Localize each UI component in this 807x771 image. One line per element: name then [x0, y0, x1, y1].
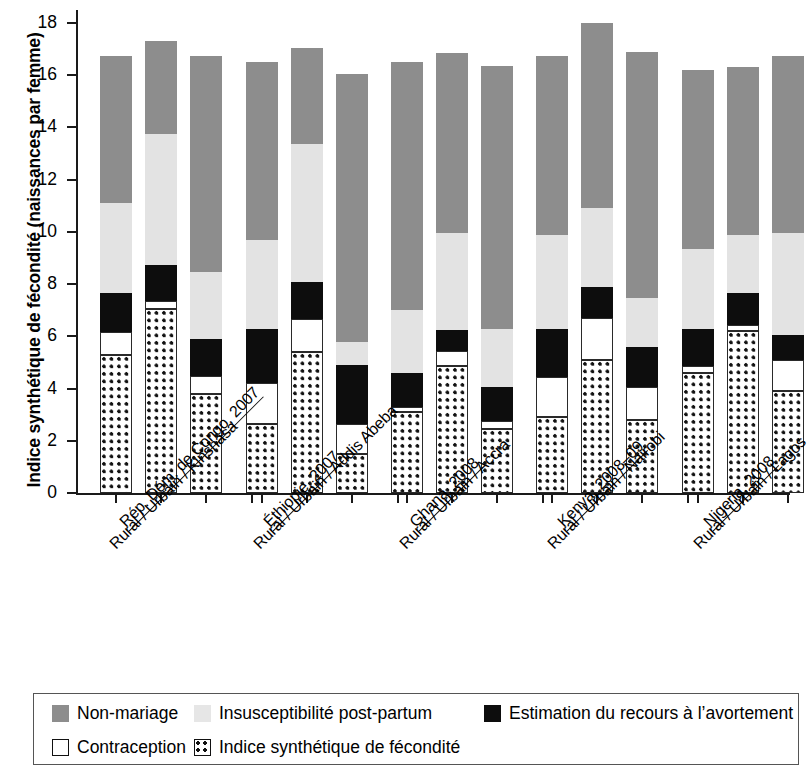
y-tick-14: [67, 126, 76, 128]
bar-segment-abortion: [772, 335, 804, 360]
bar-segment-postpartum: [581, 208, 613, 286]
stacked-bar[interactable]: [291, 48, 323, 493]
bar-segment-contraception: [190, 376, 222, 394]
bar-segment-postpartum: [682, 249, 714, 329]
bar-segment-nonmarriage: [336, 74, 368, 342]
bar-segment-contraception: [581, 318, 613, 360]
x-tick: [787, 495, 789, 503]
bar-segment-nonmarriage: [190, 56, 222, 273]
bar-segment-postpartum: [391, 310, 423, 373]
bar-segment-nonmarriage: [436, 53, 468, 233]
bar-segment-contraception: [682, 366, 714, 373]
bar-segment-abortion: [336, 365, 368, 424]
legend-label: Estimation du recours à l’avortement: [509, 703, 793, 724]
stacked-bar[interactable]: [481, 66, 513, 493]
y-tick-18: [67, 22, 76, 24]
y-tick-0: [67, 492, 76, 494]
stacked-bar[interactable]: [626, 52, 658, 493]
legend-row-top: Non-mariageInsusceptibilité post-partumE…: [34, 696, 798, 730]
bar-segment-abortion: [536, 329, 568, 377]
stacked-bar[interactable]: [391, 62, 423, 493]
legend-item-abortion[interactable]: Estimation du recours à l’avortement: [484, 696, 793, 730]
stacked-bar[interactable]: [581, 23, 613, 493]
bar-segment-abortion: [391, 373, 423, 407]
stacked-bar[interactable]: [436, 53, 468, 493]
bar-segment-postpartum: [291, 144, 323, 281]
bar-segment-tfr: [682, 373, 714, 493]
legend-item-contraception[interactable]: Contraception: [52, 730, 186, 764]
x-tick: [697, 495, 699, 503]
stacked-bar[interactable]: [145, 41, 177, 493]
stacked-bar[interactable]: [536, 56, 568, 493]
bar-segment-contraception: [291, 319, 323, 352]
bar-segment-nonmarriage: [727, 67, 759, 234]
bar-segment-contraception: [536, 377, 568, 417]
bar-segment-postpartum: [336, 342, 368, 366]
legend-item-tfr[interactable]: Indice synthétique de fécondité: [194, 730, 460, 764]
y-tick-label-16: 16: [13, 67, 57, 81]
bar-group: [391, 10, 513, 495]
bar-segment-abortion: [246, 329, 278, 384]
stacked-bar[interactable]: [682, 70, 714, 493]
bar-segment-tfr: [536, 417, 568, 493]
bar-segment-postpartum: [145, 134, 177, 265]
bar-segment-contraception: [145, 301, 177, 309]
bar-segment-postpartum: [536, 235, 568, 329]
y-tick-10: [67, 231, 76, 233]
bar-group: [246, 10, 368, 495]
y-tick-12: [67, 179, 76, 181]
bar-segment-nonmarriage: [772, 56, 804, 234]
x-tick-group-separator: [397, 495, 399, 503]
bar-segment-abortion: [626, 347, 658, 387]
bar-segment-nonmarriage: [100, 56, 132, 204]
bar-segment-nonmarriage: [481, 66, 513, 328]
x-tick: [205, 495, 207, 503]
bar-segment-abortion: [291, 282, 323, 320]
legend-swatch-nonmarriage-icon: [52, 705, 69, 722]
bar-segment-postpartum: [626, 298, 658, 346]
stacked-bar[interactable]: [772, 56, 804, 493]
stacked-bar[interactable]: [727, 67, 759, 493]
stacked-bar[interactable]: [100, 56, 132, 493]
bar-group: [536, 10, 658, 495]
bar-segment-tfr: [391, 412, 423, 493]
y-tick-label-2: 2: [13, 433, 57, 447]
stacked-bar-chart: Indice synthétique de fécondité (naissan…: [0, 0, 807, 771]
x-tick-group-separator: [542, 495, 544, 503]
bar-segment-nonmarriage: [145, 41, 177, 134]
bar-segment-tfr: [100, 355, 132, 493]
y-tick-6: [67, 335, 76, 337]
plot-area: 024681012141618: [76, 10, 790, 495]
y-tick-label-18: 18: [13, 15, 57, 29]
legend-item-postpartum[interactable]: Insusceptibilité post-partum: [194, 696, 432, 730]
bar-segment-tfr: [246, 424, 278, 493]
bar-segment-nonmarriage: [626, 52, 658, 299]
y-tick-label-4: 4: [13, 381, 57, 395]
bar-segment-nonmarriage: [391, 62, 423, 310]
bar-segment-contraception: [772, 360, 804, 391]
stacked-bar[interactable]: [246, 62, 278, 493]
x-tick-group-separator: [251, 495, 253, 503]
bar-segment-abortion: [100, 293, 132, 332]
legend-label: Insusceptibilité post-partum: [219, 703, 432, 724]
bar-segment-contraception: [626, 387, 658, 420]
bar-segment-abortion: [727, 293, 759, 324]
y-axis-line: [76, 10, 78, 495]
y-tick-label-10: 10: [13, 224, 57, 238]
bar-segment-nonmarriage: [682, 70, 714, 249]
legend-item-nonmarriage[interactable]: Non-mariage: [52, 696, 178, 730]
bar-segment-abortion: [481, 387, 513, 421]
x-tick: [351, 495, 353, 503]
bar-group: [100, 10, 222, 495]
bar-segment-postpartum: [190, 272, 222, 339]
x-tick: [406, 495, 408, 503]
bar-segment-nonmarriage: [581, 23, 613, 208]
legend-label: Indice synthétique de fécondité: [219, 737, 460, 758]
bar-segment-postpartum: [436, 233, 468, 330]
y-tick-label-8: 8: [13, 276, 57, 290]
legend-row-bottom: ContraceptionIndice synthétique de fécon…: [34, 730, 798, 764]
legend-swatch-contraception-icon: [52, 739, 69, 756]
bar-segment-postpartum: [100, 203, 132, 293]
bar-segment-postpartum: [727, 235, 759, 294]
bar-segment-contraception: [481, 421, 513, 429]
